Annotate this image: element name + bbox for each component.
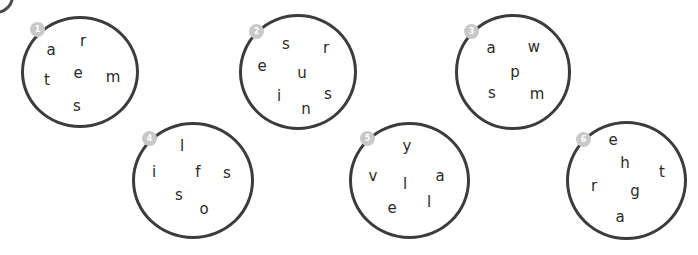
puzzle-number-badge: 1 xyxy=(30,22,45,37)
puzzle-number-badge: 2 xyxy=(249,24,264,39)
letter: e xyxy=(257,59,266,74)
letter: r xyxy=(323,41,329,56)
letter: y xyxy=(403,139,412,154)
letter: a xyxy=(435,169,444,184)
letter: l xyxy=(180,139,184,154)
letter: i xyxy=(277,89,281,104)
letter: s xyxy=(488,86,496,101)
letter: p xyxy=(510,65,520,80)
letter: a xyxy=(615,210,624,225)
letter: l xyxy=(427,195,431,210)
letter: e xyxy=(73,66,82,81)
letter: s xyxy=(324,87,332,102)
puzzle-number-badge: 6 xyxy=(576,132,591,147)
letter: s xyxy=(73,99,81,114)
letter: m xyxy=(106,70,121,85)
letter: v xyxy=(369,169,378,184)
letter: m xyxy=(530,87,545,102)
letter: h xyxy=(620,156,630,171)
letter: i xyxy=(152,165,156,180)
puzzle-number-badge: 5 xyxy=(360,131,375,146)
letter: u xyxy=(297,66,307,81)
letter: o xyxy=(199,202,208,217)
puzzle-number-badge: 3 xyxy=(464,24,479,39)
letter: e xyxy=(608,133,617,148)
letter: g xyxy=(630,184,640,199)
letter: n xyxy=(301,102,311,117)
letter: r xyxy=(80,34,86,49)
letter: t xyxy=(44,73,50,88)
corner-decoration xyxy=(0,0,14,14)
letter: a xyxy=(486,41,495,56)
letter: l xyxy=(403,177,407,192)
letter: e xyxy=(387,201,396,216)
letter: a xyxy=(46,43,55,58)
letter: s xyxy=(282,37,290,52)
letter: s xyxy=(223,166,231,181)
letter: f xyxy=(195,165,200,180)
letter: w xyxy=(528,40,540,55)
puzzle-number-badge: 4 xyxy=(142,131,157,146)
letter: s xyxy=(175,188,183,203)
letter: r xyxy=(591,179,597,194)
letter: t xyxy=(659,165,665,180)
